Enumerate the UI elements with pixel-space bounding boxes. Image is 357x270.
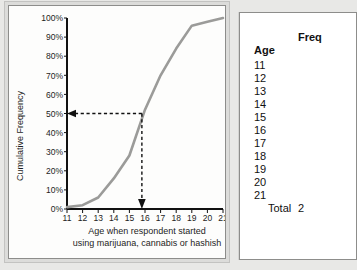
cell-frequency [298, 175, 322, 188]
y-axis-title: Cumulative Frequency [15, 90, 25, 181]
total-value: 2 [298, 201, 322, 214]
y-tick-label: 20% [46, 166, 63, 176]
y-tick-label: 80% [46, 51, 63, 61]
y-tick-label: 40% [46, 128, 63, 138]
x-tick-label: 12 [78, 213, 88, 223]
y-tick-label: 0% [51, 204, 64, 214]
y-axis-ticks: 0%10%20%30%40%50%60%70%80%90%100% [41, 13, 67, 214]
header-frequency: Freq [298, 31, 322, 44]
x-tick-label: 17 [156, 213, 166, 223]
cell-frequency [298, 149, 322, 162]
table-row: 19 [254, 162, 322, 175]
cell-frequency [298, 110, 322, 123]
x-tick-label: 18 [171, 213, 181, 223]
chart-panel: Cumulative Frequency 0%10%20%30%40%50%60… [8, 5, 226, 259]
y-tick-label: 30% [46, 147, 63, 157]
cell-age: 13 [254, 84, 298, 97]
frequency-table-inner: Freq Age 1112131415161718192021 Total 2 [240, 13, 356, 259]
plot-area: Cumulative Frequency 0%10%20%30%40%50%60… [9, 6, 225, 258]
x-tick-label: 14 [109, 213, 119, 223]
cumulative-frequency-chart: Cumulative Frequency 0%10%20%30%40%50%60… [9, 6, 225, 258]
x-tick-label: 15 [125, 213, 135, 223]
table-row: 17 [254, 136, 322, 149]
cell-age: 18 [254, 149, 298, 162]
cell-age: 17 [254, 136, 298, 149]
x-axis-caption-line-1: Age when respondent started [88, 226, 206, 236]
x-tick-label: 11 [63, 213, 72, 223]
cell-age: 16 [254, 123, 298, 136]
table-foot: Total 2 [254, 201, 322, 214]
table-header-row: Age [254, 44, 322, 58]
header-age: Age [254, 44, 298, 58]
cell-frequency [298, 58, 322, 71]
table-row: 18 [254, 149, 322, 162]
x-tick-label: 21 [218, 213, 225, 223]
y-tick-label: 50% [46, 109, 63, 119]
cell-frequency [298, 71, 322, 84]
table-row: 13 [254, 84, 322, 97]
cell-frequency [298, 162, 322, 175]
cell-age: 15 [254, 110, 298, 123]
y-tick-label: 10% [46, 185, 63, 195]
total-label: Total [254, 201, 298, 214]
table-head: Freq Age [254, 31, 322, 58]
cumulative-frequency-curve [67, 18, 223, 207]
table-row: 20 [254, 175, 322, 188]
cell-frequency [298, 97, 322, 110]
table-row: 12 [254, 71, 322, 84]
table-header-span-row: Freq [254, 31, 322, 44]
x-axis-caption-line-2: using marijuana, cannabis or hashish [73, 238, 222, 248]
cell-age: 21 [254, 188, 298, 201]
table-top-spacer [240, 19, 356, 31]
x-tick-label: 16 [140, 213, 150, 223]
cell-frequency [298, 84, 322, 97]
median-horizontal-annotation [67, 110, 142, 118]
frequency-table-panel: Freq Age 1112131415161718192021 Total 2 [239, 12, 357, 260]
table-row: 16 [254, 123, 322, 136]
frequency-table: Freq Age 1112131415161718192021 Total 2 [254, 31, 322, 214]
cell-frequency [298, 136, 322, 149]
cell-age: 19 [254, 162, 298, 175]
cell-age: 11 [254, 58, 298, 71]
table-row: 11 [254, 58, 322, 71]
cell-age: 20 [254, 175, 298, 188]
table-row: 14 [254, 97, 322, 110]
table-total-row: Total 2 [254, 201, 322, 214]
y-tick-label: 60% [46, 90, 63, 100]
cell-age: 14 [254, 97, 298, 110]
y-tick-label: 90% [46, 32, 63, 42]
x-tick-label: 19 [187, 213, 197, 223]
y-tick-label: 100% [41, 13, 63, 23]
table-row: 15 [254, 110, 322, 123]
cell-frequency [298, 123, 322, 136]
x-tick-label: 13 [93, 213, 103, 223]
header-spacer [254, 31, 298, 44]
header-value-blank [298, 44, 322, 58]
cell-frequency [298, 188, 322, 201]
cell-age: 12 [254, 71, 298, 84]
x-tick-label: 20 [203, 213, 213, 223]
y-tick-label: 70% [46, 71, 63, 81]
x-axis-ticks: 1112131415161718192021 [63, 209, 225, 223]
table-row: 21 [254, 188, 322, 201]
table-body: 1112131415161718192021 [254, 58, 322, 201]
